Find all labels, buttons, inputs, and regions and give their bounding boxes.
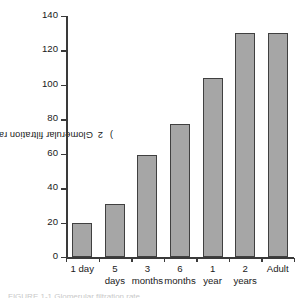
x-axis-tick-label: 6 months — [164, 263, 197, 286]
x-axis-tick — [229, 258, 230, 262]
y-axis-tick-label: 40 — [47, 181, 58, 192]
y-axis-tick: 100 — [61, 85, 66, 86]
bar — [235, 33, 255, 257]
x-axis-tick-label: 5 days — [99, 263, 132, 286]
x-axis-tick — [131, 258, 132, 262]
y-axis-tick: 20 — [61, 223, 66, 224]
bar — [170, 124, 190, 257]
x-axis-tick — [66, 258, 67, 262]
plot-area: 020406080100120140 — [66, 16, 294, 257]
figure-caption-cropped: FIGURE 1-1 Glomerular filtration rate — [8, 292, 292, 298]
y-axis-title: Glomerular filtration rate (mL/minute/1.… — [0, 0, 22, 270]
y-axis-tick: 140 — [61, 16, 66, 17]
bar — [137, 155, 157, 257]
x-axis-tick-label: 1 day — [66, 263, 99, 275]
y-axis-tick-label: 60 — [47, 147, 58, 158]
bar — [105, 204, 125, 257]
x-axis-tick — [164, 258, 165, 262]
y-axis-tick: 40 — [61, 188, 66, 189]
x-axis-tick — [99, 258, 100, 262]
x-axis-tick-label: 2 years — [229, 263, 262, 286]
bar — [268, 33, 288, 257]
x-axis-tick-label: 3 months — [131, 263, 164, 286]
x-axis-tick-label: Adult — [261, 263, 294, 275]
x-axis-tick — [261, 258, 262, 262]
y-axis-tick: 60 — [61, 154, 66, 155]
y-axis-tick-label: 140 — [42, 9, 58, 20]
y-axis-tick-label: 120 — [42, 43, 58, 54]
y-axis-tick-label: 20 — [47, 216, 58, 227]
y-axis-tick-label: 80 — [47, 112, 58, 123]
x-axis-tick — [196, 258, 197, 262]
bar — [203, 78, 223, 257]
chart-figure: Glomerular filtration rate (mL/minute/1.… — [0, 0, 300, 299]
y-axis-tick-label: 100 — [42, 78, 58, 89]
y-axis-tick: 80 — [61, 119, 66, 120]
y-axis-line — [66, 16, 68, 258]
y-axis-tick: 120 — [61, 50, 66, 51]
y-axis-tick-label: 0 — [53, 250, 58, 261]
bar — [72, 223, 92, 257]
x-axis-tick — [294, 258, 295, 262]
x-axis-line — [66, 257, 294, 259]
x-axis-tick-label: 1 year — [196, 263, 229, 286]
